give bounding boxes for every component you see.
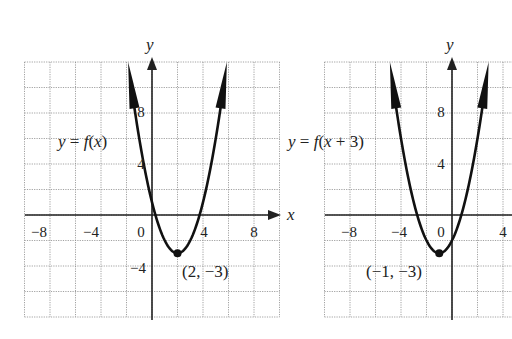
right-y-axis-arrow-icon: [447, 57, 457, 70]
right-graph: y y = f(x + 3) (−1, −3) −8 −4 0 4 8 4: [286, 35, 512, 320]
right-y-tick: 8: [437, 104, 445, 120]
left-curve-label: y = f(x): [56, 132, 107, 151]
right-curve-label: y = f(x + 3): [286, 132, 364, 151]
left-curve-arrow-icon: [216, 62, 227, 109]
figure: y x y = f(x) (2, −3) −8 −4 0 4 8 8 4 −4 …: [0, 0, 512, 339]
left-vertex-label: (2, −3): [182, 262, 228, 281]
right-x-tick: −4: [391, 224, 407, 240]
left-x-tick: 0: [137, 224, 145, 240]
left-y-tick: 8: [137, 104, 145, 120]
left-vertex-point: [174, 249, 182, 257]
right-vertex-point: [435, 249, 443, 257]
left-graph: y x y = f(x) (2, −3) −8 −4 0 4 8 8 4 −4: [25, 35, 296, 320]
left-y-tick: −4: [130, 260, 146, 276]
right-y-tick: 4: [437, 156, 445, 172]
right-x-tick: −8: [341, 224, 357, 240]
left-y-tick: 4: [137, 156, 145, 172]
right-y-label: y: [444, 35, 454, 54]
right-vertex-label: (−1, −3): [366, 262, 422, 281]
left-x-tick: −4: [83, 224, 99, 240]
left-y-axis-arrow-icon: [147, 57, 157, 70]
right-x-tick: 4: [499, 224, 507, 240]
right-x-tick: 0: [437, 224, 445, 240]
left-x-label: x: [286, 205, 295, 224]
left-x-tick: 4: [200, 224, 208, 240]
left-x-axis-arrow-icon: [268, 210, 281, 220]
left-x-tick: 8: [250, 224, 258, 240]
left-curve-arrow-icon: [128, 62, 139, 109]
left-y-label: y: [144, 35, 154, 54]
right-curve-arrow-icon: [390, 62, 401, 109]
right-curve-arrow-icon: [477, 62, 488, 109]
left-x-tick: −8: [31, 224, 47, 240]
